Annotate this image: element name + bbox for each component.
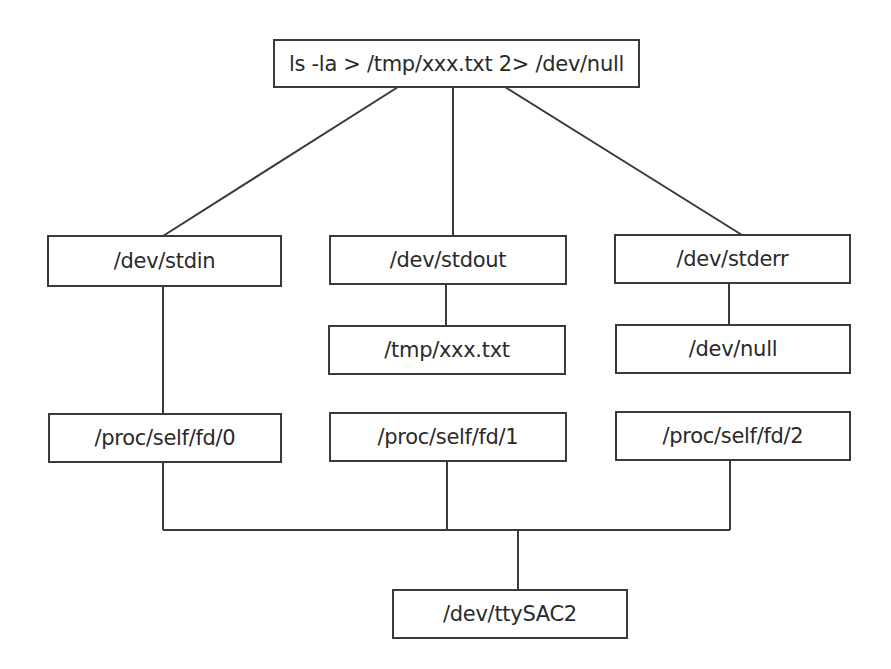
dev-null-label: /dev/null (689, 337, 777, 361)
fd0-node: /proc/self/fd/0 (48, 413, 282, 463)
fd1-node: /proc/self/fd/1 (329, 412, 567, 462)
tty-node: /dev/ttySAC2 (392, 589, 628, 639)
stdin-label: /dev/stdin (114, 249, 215, 273)
tmp-file-node: /tmp/xxx.txt (328, 325, 566, 375)
stdout-node: /dev/stdout (329, 235, 567, 285)
edge-command-stderr (505, 87, 742, 235)
tmp-file-label: /tmp/xxx.txt (384, 338, 509, 362)
tty-label: /dev/ttySAC2 (443, 602, 577, 626)
command-node: ls -la > /tmp/xxx.txt 2> /dev/null (273, 39, 640, 88)
stderr-node: /dev/stderr (614, 234, 851, 284)
dev-null-node: /dev/null (615, 324, 851, 374)
fd1-label: /proc/self/fd/1 (378, 425, 519, 449)
stdin-node: /dev/stdin (47, 235, 282, 287)
fd2-node: /proc/self/fd/2 (615, 411, 851, 461)
edge-command-stdin (163, 87, 398, 236)
command-label: ls -la > /tmp/xxx.txt 2> /dev/null (289, 52, 624, 76)
stdout-label: /dev/stdout (390, 248, 506, 272)
stderr-label: /dev/stderr (677, 247, 789, 271)
fd0-label: /proc/self/fd/0 (95, 426, 236, 450)
fd2-label: /proc/self/fd/2 (663, 424, 804, 448)
